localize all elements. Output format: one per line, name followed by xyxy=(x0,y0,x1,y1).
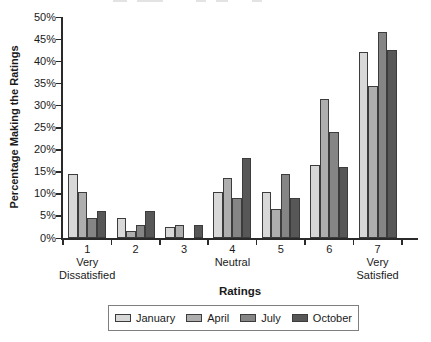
bar-july-rating-4 xyxy=(232,198,242,238)
y-tick-label: 35% xyxy=(20,77,56,90)
bar-january-rating-5 xyxy=(262,192,272,238)
x-category-sublabel: Neutral xyxy=(187,256,277,269)
x-tick xyxy=(159,240,161,245)
legend-label: October xyxy=(313,312,352,324)
y-tick-label: 30% xyxy=(20,99,56,112)
y-tick-label: 25% xyxy=(20,121,56,134)
bar-january-rating-7 xyxy=(359,52,369,238)
legend: JanuaryAprilJulyOctober xyxy=(108,305,359,331)
x-category-label-4: 4 xyxy=(210,243,254,256)
bar-april-rating-1 xyxy=(78,192,88,238)
y-tick-label: 0% xyxy=(20,232,56,245)
x-tick xyxy=(62,240,64,245)
y-tick xyxy=(56,61,61,63)
bar-october-rating-7 xyxy=(387,50,397,238)
x-tick xyxy=(111,240,113,245)
legend-item-october: October xyxy=(292,312,352,324)
legend-swatch-january xyxy=(115,314,131,322)
y-axis-title: Percentage Making the Ratings xyxy=(8,45,20,208)
y-tick xyxy=(56,149,61,151)
bar-july-rating-7 xyxy=(378,32,388,238)
bar-january-rating-1 xyxy=(68,174,78,238)
legend-label: July xyxy=(261,312,281,324)
x-category-label-2: 2 xyxy=(114,243,158,256)
bar-april-rating-7 xyxy=(368,86,378,238)
y-tick-label: 50% xyxy=(20,11,56,24)
bar-october-rating-1 xyxy=(97,211,107,238)
legend-item-january: January xyxy=(115,312,175,324)
bar-january-rating-6 xyxy=(310,165,320,238)
bar-october-rating-5 xyxy=(290,198,300,238)
y-tick-label: 45% xyxy=(20,33,56,46)
x-category-label-7: 7 xyxy=(356,243,400,256)
bar-april-rating-5 xyxy=(271,209,281,238)
x-category-label-1: 1 xyxy=(65,243,109,256)
y-tick-label: 15% xyxy=(20,165,56,178)
y-tick xyxy=(56,238,61,240)
bar-july-rating-1 xyxy=(87,218,97,238)
bar-july-rating-5 xyxy=(281,174,291,238)
plot-area xyxy=(63,17,418,238)
bar-january-rating-3 xyxy=(165,227,175,238)
legend-item-july: July xyxy=(240,312,281,324)
x-tick xyxy=(256,240,258,245)
cropped-title-remnant xyxy=(0,0,431,3)
x-category-sublabel: Dissatisfied xyxy=(42,269,132,282)
bar-january-rating-4 xyxy=(213,192,223,238)
x-axis-title: Ratings xyxy=(219,285,261,297)
y-tick xyxy=(56,127,61,129)
satisfaction-ratings-bar-chart: Percentage Making the Ratings 0%5%10%15%… xyxy=(0,0,431,342)
y-tick xyxy=(56,83,61,85)
y-tick-label: 10% xyxy=(20,187,56,200)
bar-july-rating-2 xyxy=(136,225,146,238)
x-tick xyxy=(353,240,355,245)
legend-item-april: April xyxy=(186,312,229,324)
bar-april-rating-6 xyxy=(320,99,330,238)
bar-january-rating-2 xyxy=(117,218,127,238)
y-tick xyxy=(56,105,61,107)
x-category-label-3: 3 xyxy=(162,243,206,256)
y-tick xyxy=(56,39,61,41)
y-tick-label: 20% xyxy=(20,143,56,156)
x-tick xyxy=(207,240,209,245)
legend-label: April xyxy=(207,312,229,324)
y-tick xyxy=(56,215,61,217)
bar-april-rating-3 xyxy=(175,225,185,238)
x-category-sublabel: Very xyxy=(333,256,423,269)
legend-swatch-april xyxy=(186,314,202,322)
x-axis-line xyxy=(61,238,418,240)
x-category-label-6: 6 xyxy=(307,243,351,256)
bar-october-rating-6 xyxy=(339,167,349,238)
bar-october-rating-2 xyxy=(145,211,155,238)
bar-april-rating-2 xyxy=(126,231,136,238)
bar-july-rating-6 xyxy=(329,132,339,238)
x-tick xyxy=(401,240,403,245)
y-tick xyxy=(56,17,61,19)
bar-october-rating-3 xyxy=(194,225,204,238)
bar-october-rating-4 xyxy=(242,158,252,238)
x-category-sublabel: Satisfied xyxy=(333,269,423,282)
y-tick xyxy=(56,193,61,195)
x-category-sublabel: Very xyxy=(42,256,132,269)
legend-swatch-october xyxy=(292,314,308,322)
y-tick-label: 40% xyxy=(20,55,56,68)
x-category-label-5: 5 xyxy=(259,243,303,256)
bar-april-rating-4 xyxy=(223,178,233,238)
x-tick xyxy=(304,240,306,245)
y-tick xyxy=(56,171,61,173)
legend-swatch-july xyxy=(240,314,256,322)
y-tick-label: 5% xyxy=(20,209,56,222)
legend-label: January xyxy=(136,312,175,324)
